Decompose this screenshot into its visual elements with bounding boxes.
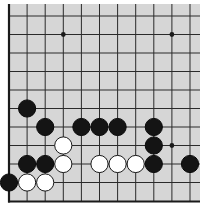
white-stone: [37, 174, 54, 191]
black-stone: [19, 155, 36, 172]
white-stone: [127, 155, 144, 172]
go-board: [0, 0, 206, 206]
star-point: [61, 32, 66, 37]
star-point: [170, 143, 175, 148]
black-stone: [37, 155, 54, 172]
white-stone: [91, 155, 108, 172]
black-stone: [73, 118, 90, 135]
white-stone: [55, 137, 72, 154]
black-stone: [19, 100, 36, 117]
black-stone: [145, 155, 162, 172]
white-stone: [109, 155, 126, 172]
black-stone: [145, 137, 162, 154]
black-stone: [181, 155, 198, 172]
white-stone: [55, 155, 72, 172]
black-stone: [37, 118, 54, 135]
star-point: [170, 32, 175, 37]
white-stone: [19, 174, 36, 191]
black-stone: [109, 118, 126, 135]
black-stone: [0, 174, 17, 191]
black-stone: [91, 118, 108, 135]
black-stone: [145, 118, 162, 135]
